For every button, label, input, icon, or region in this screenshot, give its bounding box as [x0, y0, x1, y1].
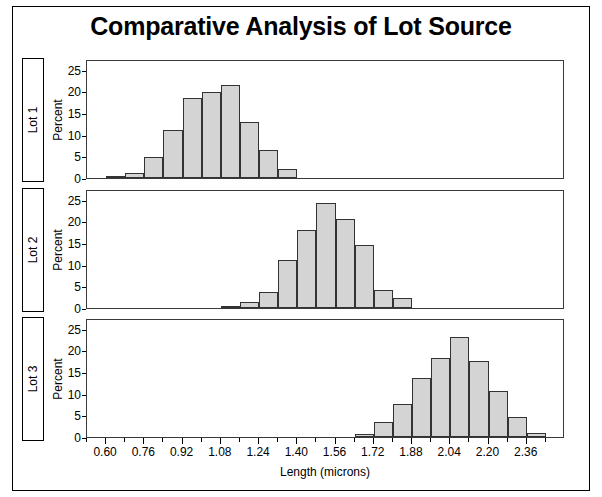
- y-axis: 0510152025: [66, 190, 86, 309]
- histogram-bar: [202, 92, 221, 178]
- histogram-bar: [221, 306, 240, 308]
- x-tick-label: 0.60: [93, 446, 116, 459]
- panel-row-3: Lot 3Percent0510152025: [0, 315, 578, 445]
- histogram-bar: [527, 433, 546, 437]
- y-tick-label: 0: [74, 432, 81, 444]
- x-tick-mark-minor: [468, 438, 469, 442]
- panel-row-2: Lot 2Percent0510152025: [0, 186, 578, 316]
- x-tick-mark-minor: [315, 438, 316, 442]
- x-tick-label: 1.24: [246, 446, 269, 459]
- y-tick-label: 0: [74, 173, 81, 185]
- histogram-bar: [393, 404, 412, 437]
- y-axis-label-text: Percent: [51, 99, 65, 140]
- y-tick-label: 25: [68, 324, 81, 336]
- histogram-bar: [259, 292, 278, 308]
- x-tick-mark-minor: [86, 438, 87, 442]
- histogram-bar: [393, 298, 412, 308]
- x-tick-label: 0.92: [170, 446, 193, 459]
- y-axis: 0510152025: [66, 319, 86, 438]
- x-tick-label: 2.04: [438, 446, 461, 459]
- histogram-bar: [412, 378, 431, 437]
- y-axis-label: Percent: [50, 188, 66, 312]
- histogram-bar: [374, 290, 393, 308]
- x-tick-mark-major: [105, 438, 106, 444]
- y-tick-label: 10: [68, 260, 81, 272]
- bar-series: [87, 191, 563, 308]
- y-axis-label-text: Percent: [51, 229, 65, 270]
- x-tick-label: 1.08: [208, 446, 231, 459]
- plot-area-3: [86, 319, 564, 438]
- histogram-bar: [163, 130, 182, 178]
- x-tick-mark-minor: [162, 438, 163, 442]
- histogram-bar: [106, 176, 125, 178]
- histogram-bar: [450, 337, 469, 437]
- y-tick-label: 20: [68, 216, 81, 228]
- histogram-bar: [259, 150, 278, 178]
- x-tick-label: 1.72: [361, 446, 384, 459]
- x-tick-mark-minor: [354, 438, 355, 442]
- bar-series: [87, 61, 563, 178]
- plot-area-1: [86, 60, 564, 179]
- x-tick-mark-major: [182, 438, 183, 444]
- histogram-bar: [297, 230, 316, 308]
- y-axis: 0510152025: [66, 60, 86, 179]
- histogram-bar: [240, 122, 259, 178]
- row-header-lot-2: Lot 2: [22, 188, 44, 312]
- x-tick-mark-minor: [239, 438, 240, 442]
- y-tick-label: 5: [74, 410, 81, 422]
- x-tick-mark-major: [373, 438, 374, 444]
- y-axis-label: Percent: [50, 317, 66, 441]
- y-tick-label: 5: [74, 281, 81, 293]
- y-tick-label: 20: [68, 86, 81, 98]
- x-tick-mark-minor: [507, 438, 508, 442]
- x-tick-mark-major: [488, 438, 489, 444]
- x-tick-label: 1.56: [323, 446, 346, 459]
- y-tick-label: 0: [74, 303, 81, 315]
- histogram-bar: [355, 245, 374, 308]
- y-tick-mark: [82, 179, 86, 180]
- x-tick-mark-major: [143, 438, 144, 444]
- histogram-bar: [144, 157, 163, 178]
- chart-title: Comparative Analysis of Lot Source: [12, 10, 590, 42]
- x-tick-label: 2.20: [476, 446, 499, 459]
- histogram-bar: [469, 361, 488, 437]
- row-header-lot-1: Lot 1: [22, 58, 44, 182]
- x-tick-label: 1.88: [399, 446, 422, 459]
- x-tick-mark-minor: [392, 438, 393, 442]
- histogram-bar: [221, 85, 240, 178]
- histogram-bar: [431, 358, 450, 437]
- y-axis-label-text: Percent: [51, 358, 65, 399]
- x-tick-mark-major: [449, 438, 450, 444]
- x-tick-label: 0.76: [132, 446, 155, 459]
- y-tick-label: 10: [68, 389, 81, 401]
- x-tick-mark-major: [296, 438, 297, 444]
- row-header-label: Lot 2: [26, 237, 40, 264]
- x-tick-mark-minor: [430, 438, 431, 442]
- x-axis-label: Length (microns): [86, 465, 564, 479]
- x-tick-mark-major: [526, 438, 527, 444]
- x-axis: 0.600.760.921.081.241.401.561.721.882.04…: [86, 438, 564, 450]
- x-tick-mark-minor: [545, 438, 546, 442]
- histogram-bar: [508, 417, 527, 437]
- histogram-bar: [125, 173, 144, 178]
- row-header-label: Lot 3: [26, 366, 40, 393]
- histogram-bar: [278, 260, 297, 308]
- y-tick-label: 15: [68, 367, 81, 379]
- y-tick-label: 15: [68, 108, 81, 120]
- histogram-bar: [374, 422, 393, 437]
- histogram-bar: [240, 302, 259, 308]
- x-tick-label: 1.40: [285, 446, 308, 459]
- y-axis-label: Percent: [50, 58, 66, 182]
- histogram-bar: [355, 434, 374, 437]
- row-header-lot-3: Lot 3: [22, 317, 44, 441]
- y-tick-label: 20: [68, 345, 81, 357]
- row-header-label: Lot 1: [26, 107, 40, 134]
- histogram-bar: [489, 391, 508, 437]
- histogram-bar: [183, 98, 202, 178]
- histogram-bar: [316, 203, 335, 308]
- x-tick-mark-major: [335, 438, 336, 444]
- y-tick-label: 25: [68, 195, 81, 207]
- y-tick-label: 5: [74, 151, 81, 163]
- x-tick-mark-minor: [124, 438, 125, 442]
- panel-row-1: Lot 1Percent0510152025: [0, 56, 578, 186]
